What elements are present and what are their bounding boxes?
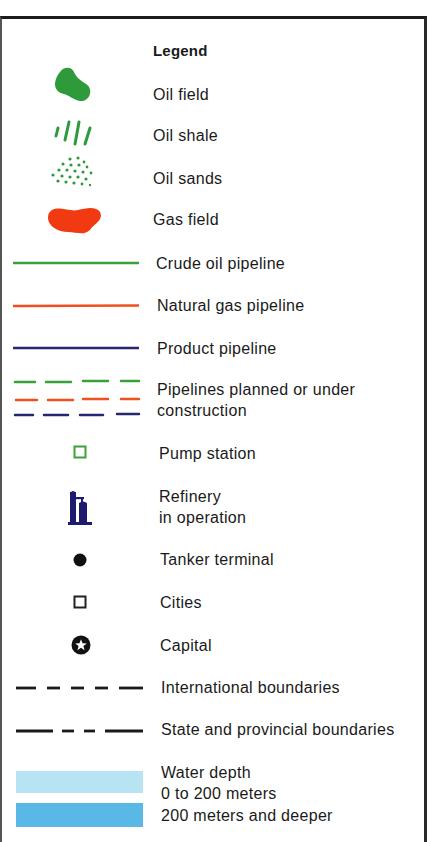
legend-label-cities: Cities	[160, 592, 202, 613]
legend-label-oil-sands: Oil sands	[153, 168, 222, 189]
legend-label-state-boundaries: State and provincial boundaries	[161, 719, 394, 740]
product-pipeline-icon	[13, 346, 140, 350]
oil-shale-icon	[50, 116, 96, 150]
state-boundaries-icon	[16, 729, 144, 733]
legend-label-oil-shale: Oil shale	[153, 125, 218, 146]
legend-label-pump-station: Pump station	[159, 443, 256, 464]
international-boundaries-icon	[16, 686, 144, 690]
water-shallow-swatch	[16, 771, 143, 793]
legend-label-crude-oil-pipeline: Crude oil pipeline	[156, 253, 285, 274]
legend-label-international-boundaries: International boundaries	[161, 677, 340, 698]
legend-label-water-0-200: 0 to 200 meters	[161, 783, 277, 804]
oil-sands-icon	[48, 155, 100, 189]
legend-label-capital: Capital	[160, 635, 212, 656]
legend-label-product-pipeline: Product pipeline	[157, 338, 277, 359]
oil-field-icon	[50, 66, 96, 108]
legend-label-refinery-line2: in operation	[159, 507, 246, 528]
legend-label-planned-pipelines-line1: Pipelines planned or under	[157, 379, 355, 400]
natural-gas-pipeline-icon	[13, 304, 140, 308]
water-deep-swatch	[16, 803, 143, 827]
legend-title: Legend	[153, 42, 208, 59]
cities-icon	[73, 595, 87, 609]
refinery-icon	[67, 490, 93, 526]
pump-station-icon	[73, 445, 87, 459]
capital-icon	[71, 635, 91, 655]
legend-label-water-depth: Water depth	[161, 762, 251, 783]
legend-label-refinery-line1: Refinery	[159, 486, 221, 507]
crude-oil-pipeline-icon	[13, 261, 140, 265]
legend-label-gas-field: Gas field	[153, 209, 219, 230]
legend-label-tanker-terminal: Tanker terminal	[160, 549, 274, 570]
legend-label-natural-gas-pipeline: Natural gas pipeline	[157, 295, 304, 316]
legend-label-planned-pipelines-line2: construction	[157, 400, 247, 421]
planned-pipelines-icon	[13, 379, 143, 419]
legend-label-water-deep: 200 meters and deeper	[161, 805, 333, 826]
gas-field-icon	[46, 206, 104, 236]
legend-label-oil-field: Oil field	[153, 84, 209, 105]
tanker-terminal-icon	[73, 553, 87, 567]
